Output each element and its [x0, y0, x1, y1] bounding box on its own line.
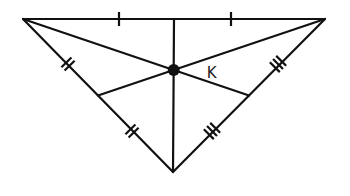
median-from-a — [23, 19, 249, 96]
triangle-diagram: K — [0, 0, 350, 196]
centroid-label: K — [207, 64, 218, 82]
diagram-canvas: K — [0, 0, 350, 196]
centroid-point — [168, 64, 180, 76]
median-from-b — [98, 19, 325, 96]
median-from-c — [173, 19, 174, 172]
medians — [23, 19, 325, 172]
